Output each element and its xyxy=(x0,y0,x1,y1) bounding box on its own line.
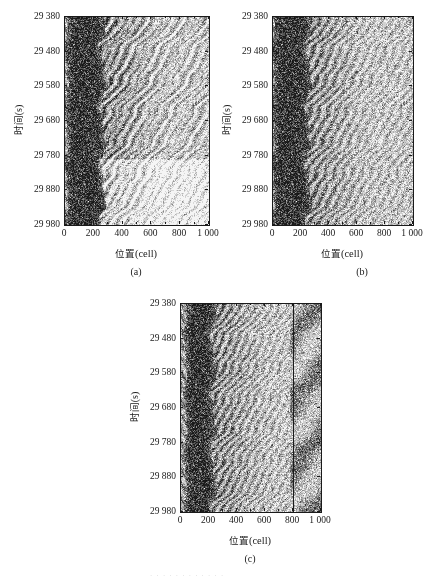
y-tick-label-a-29480: 29 480 xyxy=(16,46,60,56)
y-tick-label-a-29380: 29 380 xyxy=(16,11,60,21)
x-tick-c-200 xyxy=(208,303,209,306)
y-tick-label-b-29380: 29 380 xyxy=(224,11,268,21)
y-tick-a-29980 xyxy=(64,224,67,225)
panel-caption-b: (b) xyxy=(292,266,432,277)
y-tick-label-c-29580: 29 580 xyxy=(132,367,176,377)
x-minor-tick-a xyxy=(136,222,137,224)
x-minor-tick-c xyxy=(194,303,195,305)
y-tick-b-29380 xyxy=(272,16,275,17)
y-tick-c-29680 xyxy=(317,407,320,408)
x-tick-c-800 xyxy=(292,303,293,306)
x-tick-a-1000 xyxy=(208,221,209,224)
x-tick-a-200 xyxy=(93,221,94,224)
y-axis-title-unit-a: (s) xyxy=(13,105,24,116)
y-axis-title-b: 时间(s) xyxy=(219,90,233,150)
y-tick-label-c-29980: 29 980 xyxy=(132,506,176,516)
y-tick-b-29580 xyxy=(409,85,412,86)
x-minor-tick-c xyxy=(194,509,195,511)
y-tick-label-a-29880: 29 880 xyxy=(16,184,60,194)
x-tick-c-1000 xyxy=(320,508,321,511)
x-axis-title-unit-a: (cell) xyxy=(135,248,157,259)
x-minor-tick-a xyxy=(165,16,166,18)
x-tick-c-600 xyxy=(264,508,265,511)
y-tick-b-29680 xyxy=(409,120,412,121)
x-minor-tick-b xyxy=(342,16,343,18)
x-axis-title-unit-c: (cell) xyxy=(249,535,271,546)
y-tick-b-29880 xyxy=(409,189,412,190)
y-tick-b-29480 xyxy=(272,51,275,52)
plot-area-a xyxy=(64,16,210,226)
x-axis-title-b: 位置(cell) xyxy=(272,246,412,260)
x-tick-a-1000 xyxy=(208,16,209,19)
x-minor-tick-b xyxy=(370,222,371,224)
y-tick-label-b-29580: 29 580 xyxy=(224,80,268,90)
x-minor-tick-b xyxy=(314,222,315,224)
y-tick-label-b-29780: 29 780 xyxy=(224,150,268,160)
x-minor-tick-c xyxy=(222,303,223,305)
x-minor-tick-b xyxy=(286,16,287,18)
x-tick-b-400 xyxy=(328,221,329,224)
y-tick-c-29480 xyxy=(180,338,183,339)
x-tick-b-400 xyxy=(328,16,329,19)
x-minor-tick-a xyxy=(78,16,79,18)
y-axis-title-cn-a: 时间 xyxy=(13,115,24,135)
figure-root: 02004006008001 00029 38029 48029 58029 6… xyxy=(0,0,441,580)
y-tick-c-29980 xyxy=(180,511,183,512)
y-tick-b-29980 xyxy=(409,224,412,225)
y-tick-label-b-29980: 29 980 xyxy=(224,219,268,229)
y-axis-title-unit-c: (s) xyxy=(129,392,140,403)
x-minor-tick-c xyxy=(222,509,223,511)
x-tick-b-800 xyxy=(384,16,385,19)
x-tick-c-600 xyxy=(264,303,265,306)
x-minor-tick-a xyxy=(136,16,137,18)
x-tick-b-600 xyxy=(356,16,357,19)
x-minor-tick-c xyxy=(278,303,279,305)
y-tick-label-c-29880: 29 880 xyxy=(132,471,176,481)
x-tick-label-b-1000: 1 000 xyxy=(390,228,434,238)
x-tick-b-1000 xyxy=(412,221,413,224)
x-tick-c-800 xyxy=(292,508,293,511)
x-axis-title-a: 位置(cell) xyxy=(64,246,208,260)
x-axis-title-unit-b: (cell) xyxy=(341,248,363,259)
x-minor-tick-a xyxy=(107,16,108,18)
x-minor-tick-a xyxy=(165,222,166,224)
x-minor-tick-b xyxy=(370,16,371,18)
x-tick-a-800 xyxy=(179,221,180,224)
x-minor-tick-b xyxy=(342,222,343,224)
x-minor-tick-b xyxy=(398,222,399,224)
y-tick-a-29780 xyxy=(205,155,208,156)
panel-caption-c: (c) xyxy=(180,553,320,564)
panel-caption-a: (a) xyxy=(64,266,208,277)
y-axis-title-cn-b: 时间 xyxy=(221,115,232,135)
plot-area-b xyxy=(272,16,414,226)
x-tick-c-1000 xyxy=(320,303,321,306)
y-tick-c-29780 xyxy=(317,442,320,443)
x-tick-b-200 xyxy=(300,16,301,19)
x-tick-a-200 xyxy=(93,16,94,19)
x-tick-a-600 xyxy=(150,221,151,224)
y-tick-a-29580 xyxy=(64,85,67,86)
y-axis-title-a: 时间(s) xyxy=(11,90,25,150)
y-axis-title-c: 时间(s) xyxy=(127,377,141,437)
y-tick-c-29480 xyxy=(317,338,320,339)
y-tick-a-29580 xyxy=(205,85,208,86)
y-tick-c-29980 xyxy=(317,511,320,512)
y-tick-b-29380 xyxy=(409,16,412,17)
y-tick-a-29380 xyxy=(205,16,208,17)
y-tick-a-29480 xyxy=(205,51,208,52)
y-tick-label-c-29380: 29 380 xyxy=(132,298,176,308)
y-tick-c-29680 xyxy=(180,407,183,408)
x-axis-title-cn-b: 位置 xyxy=(321,248,341,259)
x-tick-a-600 xyxy=(150,16,151,19)
y-tick-b-29880 xyxy=(272,189,275,190)
x-minor-tick-b xyxy=(314,16,315,18)
x-minor-tick-c xyxy=(306,509,307,511)
y-tick-b-29980 xyxy=(272,224,275,225)
y-tick-b-29580 xyxy=(272,85,275,86)
y-tick-c-29580 xyxy=(180,372,183,373)
x-tick-b-800 xyxy=(384,221,385,224)
x-minor-tick-a xyxy=(78,222,79,224)
x-axis-title-cn-c: 位置 xyxy=(229,535,249,546)
page-bleed-artifact: · · · · · · · · · · · · xyxy=(150,572,224,580)
x-axis-title-c: 位置(cell) xyxy=(180,533,320,547)
